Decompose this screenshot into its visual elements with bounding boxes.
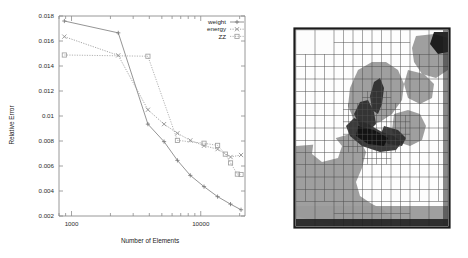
chart-axes-group: 0.0020.0040.0060.0080.010.0120.0140.0160… <box>39 12 245 227</box>
adaptive-mesh-figure <box>288 18 458 240</box>
figure-root: 0.0020.0040.0060.0080.010.0120.0140.0160… <box>0 0 468 258</box>
data-point-marker <box>239 153 243 157</box>
series-ZZ <box>62 53 243 177</box>
series-line-energy <box>64 37 241 157</box>
legend-label-ZZ: ZZ <box>218 33 226 40</box>
y-tick-label: 0.004 <box>39 187 55 194</box>
legend-label-weight: weight <box>207 18 226 25</box>
y-tick-label: 0.014 <box>39 62 55 69</box>
series-line-weight <box>64 21 241 210</box>
data-point-marker <box>239 208 243 212</box>
data-point-marker <box>116 53 120 57</box>
y-tick-label: 0.018 <box>39 12 55 19</box>
convergence-chart: 0.0020.0040.0060.0080.010.0120.0140.0160… <box>0 0 258 258</box>
y-tick-label: 0.016 <box>39 37 55 44</box>
data-point-marker <box>228 155 232 159</box>
series-weight <box>62 19 243 212</box>
x-tick-label: 1000 <box>65 220 79 227</box>
y-tick-label: 0.012 <box>39 87 55 94</box>
legend-label-energy: energy <box>207 25 227 32</box>
y-axis-label: Relative Error <box>8 105 15 145</box>
mesh-bottom-band <box>296 219 448 226</box>
data-point-marker <box>146 108 150 112</box>
data-point-marker <box>62 35 66 39</box>
data-point-marker <box>235 20 239 24</box>
data-point-marker <box>116 31 120 35</box>
chart-legend: weightenergyZZ <box>207 18 244 39</box>
x-tick-label: 10000 <box>192 220 210 227</box>
y-tick-label: 0.006 <box>39 162 55 169</box>
data-point-marker <box>228 202 232 206</box>
data-point-marker <box>162 122 166 126</box>
data-point-marker <box>175 131 179 135</box>
y-tick-label: 0.01 <box>42 112 55 119</box>
x-axis-label: Number of Elements <box>121 237 179 244</box>
series-line-ZZ <box>64 55 241 175</box>
data-point-marker <box>62 19 66 23</box>
adaptive-mesh-panel <box>288 18 458 240</box>
y-tick-label: 0.008 <box>39 137 55 144</box>
chart-series-group <box>62 19 243 212</box>
data-point-marker <box>62 53 66 57</box>
convergence-plot-panel: 0.0020.0040.0060.0080.010.0120.0140.0160… <box>0 0 258 258</box>
y-tick-label: 0.002 <box>39 212 55 219</box>
series-energy <box>62 35 243 160</box>
mesh-right-band <box>443 30 448 226</box>
